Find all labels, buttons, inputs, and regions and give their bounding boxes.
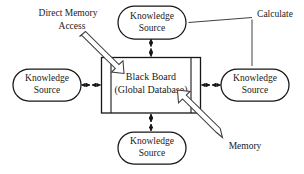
knowledge-source-right-label-line1: Knowledge	[233, 73, 277, 83]
knowledge-source-top-label-line1: Knowledge	[130, 11, 174, 21]
label-direct-memory-access: Direct Memory Access	[39, 8, 98, 31]
knowledge-source-left[interactable]: Knowledge Source	[13, 69, 81, 101]
knowledge-source-left-label-line1: Knowledge	[25, 73, 69, 83]
black-board-label-line2: (Global Database)	[114, 84, 187, 96]
black-board-label-line1: Black Board	[126, 71, 176, 82]
knowledge-source-top-label-line2: Source	[139, 23, 165, 33]
calculate-to-top-source-line	[189, 18, 253, 23]
direct-memory-access-line2: Access	[59, 21, 86, 31]
knowledge-source-left-label-line2: Source	[34, 85, 60, 95]
label-calculate: Calculate	[257, 9, 293, 19]
blackboard-architecture-diagram: Black Board (Global Database) Kn	[0, 0, 304, 174]
knowledge-source-bottom-label-line1: Knowledge	[130, 136, 174, 146]
label-memory: Memory	[229, 141, 262, 151]
knowledge-source-top[interactable]: Knowledge Source	[118, 6, 186, 39]
knowledge-source-bottom-label-line2: Source	[139, 148, 165, 158]
direct-memory-access-line1: Direct Memory	[39, 8, 98, 18]
knowledge-source-right-label-line2: Source	[242, 85, 268, 95]
diagram-canvas: Black Board (Global Database) Kn	[0, 0, 304, 174]
knowledge-source-right[interactable]: Knowledge Source	[221, 69, 289, 101]
knowledge-source-bottom[interactable]: Knowledge Source	[118, 132, 186, 164]
